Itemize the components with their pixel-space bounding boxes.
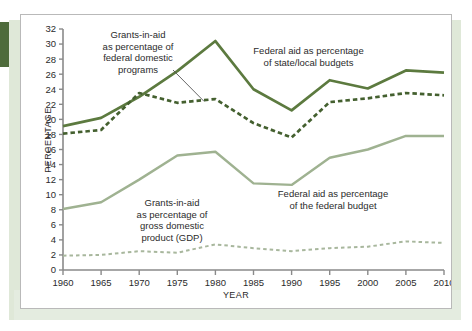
x-tick-label: 1965 — [91, 277, 112, 288]
x-tick-label: 1975 — [167, 277, 188, 288]
annotation-federal-budget: Federal aid as percentage of the federal… — [253, 188, 413, 211]
annotation-line: product (GDP) — [113, 232, 231, 244]
y-tick-label: 6 — [51, 219, 56, 230]
annotation-line: as percentage of — [113, 209, 231, 221]
x-tick-label: 2010 — [433, 277, 451, 288]
x-tick-label: 1960 — [52, 277, 73, 288]
y-tick-label: 4 — [51, 234, 56, 245]
y-tick-label: 10 — [45, 189, 56, 200]
y-axis-title: PERCENTAGE — [43, 95, 53, 185]
series-line — [63, 241, 444, 255]
annotation-line: Grants-in-aid — [79, 29, 197, 41]
annotation-line: gross domestic — [113, 220, 231, 232]
annotation-line: as percentage of — [79, 41, 197, 53]
left-accent-tab — [0, 22, 9, 67]
annotation-line: Federal aid as percentage — [253, 188, 413, 200]
x-axis-title: YEAR — [21, 290, 451, 300]
y-tick-label: 24 — [45, 84, 56, 95]
annotation-line: federal domestic — [79, 52, 197, 64]
x-tick-label: 1995 — [319, 277, 340, 288]
figure-root: 0246810121416182022242628303219601965197… — [0, 0, 472, 331]
series-line — [63, 93, 444, 137]
y-tick-label: 26 — [45, 69, 56, 80]
annotation-state-local-budgets: Federal aid as percentage of state/local… — [221, 45, 396, 68]
x-tick-label: 1985 — [243, 277, 264, 288]
x-tick-label: 2005 — [395, 277, 416, 288]
y-tick-label: 30 — [45, 38, 56, 49]
annotation-federal-domestic-programs: Grants-in-aid as percentage of federal d… — [79, 29, 197, 75]
annotation-line: of state/local budgets — [221, 57, 396, 69]
y-tick-label: 2 — [51, 249, 56, 260]
annotation-line: programs — [79, 64, 197, 76]
annotation-gdp: Grants-in-aid as percentage of gross dom… — [113, 197, 231, 243]
y-tick-label: 8 — [51, 204, 56, 215]
x-tick-label: 1980 — [205, 277, 226, 288]
annotation-line: Grants-in-aid — [113, 197, 231, 209]
chart-panel: 0246810121416182022242628303219601965197… — [20, 14, 452, 309]
y-tick-label: 28 — [45, 54, 56, 65]
x-tick-label: 1990 — [281, 277, 302, 288]
x-tick-label: 2000 — [357, 277, 378, 288]
annotation-line: of the federal budget — [253, 200, 413, 212]
annotation-line: Federal aid as percentage — [221, 45, 396, 57]
y-tick-label: 0 — [51, 264, 56, 275]
y-tick-label: 32 — [45, 23, 56, 34]
x-tick-label: 1970 — [129, 277, 150, 288]
